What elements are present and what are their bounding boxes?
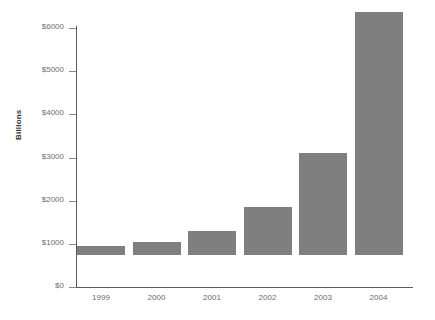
x-axis-tick-label: 1999 xyxy=(77,293,125,302)
bar xyxy=(133,242,181,255)
y-axis-title: Billions xyxy=(14,80,28,140)
x-axis-tick-label: 2004 xyxy=(355,293,403,302)
y-axis-tick-mark xyxy=(69,244,76,245)
bar-chart: Billions $0$1000$2000$3000$4000$5000$600… xyxy=(0,0,435,320)
bar xyxy=(244,207,292,255)
bar xyxy=(77,246,125,255)
y-axis-tick-mark xyxy=(69,28,76,29)
x-axis-tick-label: 2003 xyxy=(299,293,347,302)
y-axis-tick-label: $6000 xyxy=(42,22,64,31)
y-axis-tick-label: $4000 xyxy=(42,108,64,117)
y-axis-tick-mark xyxy=(69,201,76,202)
y-axis-tick-mark xyxy=(69,158,76,159)
y-axis-tick-label: $3000 xyxy=(42,152,64,161)
bar xyxy=(188,231,236,255)
bars-layer: 199920002001200220032004 xyxy=(77,0,413,288)
bar xyxy=(299,153,347,255)
y-axis-tick-mark xyxy=(69,71,76,72)
y-axis-tick-mark xyxy=(69,287,76,288)
y-axis-tick-label: $0 xyxy=(55,281,64,290)
y-axis-tick-label: $5000 xyxy=(42,65,64,74)
x-axis-tick-label: 2000 xyxy=(133,293,181,302)
x-axis-tick-label: 2002 xyxy=(244,293,292,302)
y-axis-tick-label: $1000 xyxy=(42,238,64,247)
y-axis-tick-mark xyxy=(69,114,76,115)
bar xyxy=(355,12,403,255)
y-axis-tick-label: $2000 xyxy=(42,195,64,204)
x-axis-tick-label: 2001 xyxy=(188,293,236,302)
